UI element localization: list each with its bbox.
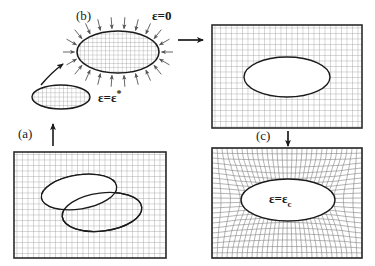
arrow-a-to-b (41, 64, 63, 85)
figure-canvas: (b) ε=0 ε=ε* (a) (c) ε=εc (0, 0, 375, 266)
label-step-c: (c) (256, 128, 270, 144)
label-strain-eigenstrain-sup: * (117, 88, 122, 99)
label-step-a: (a) (18, 126, 32, 142)
label-strain-constrained: ε=εc (269, 191, 292, 209)
label-step-b: (b) (76, 8, 91, 24)
panel-matrix-with-cut-inclusion (14, 152, 166, 258)
inclusion-unstrained (30, 84, 94, 112)
panel-matrix-with-hole (212, 25, 362, 128)
diagram-svg (0, 0, 375, 266)
label-strain-constrained-base: ε=ε (269, 191, 288, 206)
cavity-outline (244, 57, 330, 97)
label-strain-constrained-sub: c (288, 199, 292, 209)
inclusion-compressed (63, 17, 173, 87)
label-strain-eigenstrain-base: ε=ε (98, 90, 117, 105)
label-strain-eigenstrain: ε=ε* (98, 88, 122, 106)
label-strain-free: ε=0 (152, 8, 171, 24)
